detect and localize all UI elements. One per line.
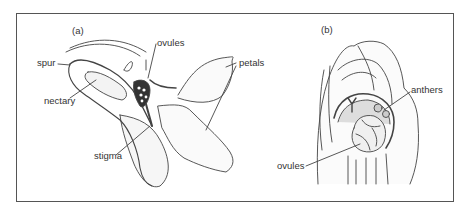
callout-anthers: anthers	[411, 85, 443, 95]
upper-petal	[178, 57, 233, 102]
callout-ovules-a: ovules	[157, 38, 184, 48]
nectary-outline	[85, 72, 127, 100]
callout-petals: petals	[239, 58, 264, 68]
callout-ovules-b: ovules	[277, 161, 304, 171]
callout-spur: spur	[37, 58, 55, 68]
callout-nectary: nectary	[44, 96, 75, 106]
flower-diagram-drawing	[0, 0, 469, 214]
ovary	[133, 80, 150, 107]
lip-petal	[120, 115, 168, 187]
panel-a-label: (a)	[72, 26, 84, 36]
lower-petal	[158, 105, 233, 172]
panel-b-label: (b)	[321, 25, 333, 35]
callout-stigma: stigma	[94, 151, 122, 161]
